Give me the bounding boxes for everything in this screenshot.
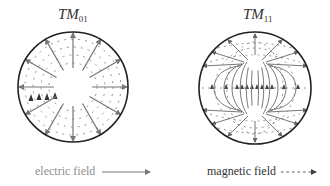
tm11-bottom-pole [247,105,263,121]
legend-magnetic-label: magnetic field [207,164,276,179]
legend-electric-label: electric field [35,164,95,179]
tm11-panel [199,32,311,144]
tm01-panel [18,32,128,142]
tm01-electric-field-arrows [19,33,127,141]
tm01-magnetic-arrowheads-icon [29,92,58,101]
mode-diagram [0,0,330,186]
tm11-top-pole [247,55,263,71]
tm11-electric-field-arrows [203,34,307,142]
